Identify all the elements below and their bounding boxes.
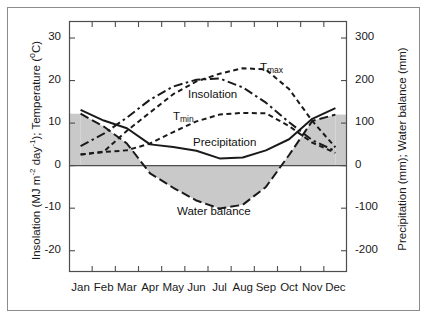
y-tick-label-left: -20 <box>31 243 61 255</box>
series-label-subscript: min <box>180 114 194 124</box>
y-tick-label-right: -200 <box>355 243 389 255</box>
series-label-precipitation: Precipitation <box>193 136 256 148</box>
series-label-main: T <box>260 61 267 73</box>
shade-cap-left <box>69 114 81 166</box>
y-tick-label-right: 0 <box>355 158 389 170</box>
y-tick-label-right: 200 <box>355 73 389 85</box>
water-balance-shaded-area <box>69 114 347 209</box>
y-tick-label-left: 30 <box>31 30 61 42</box>
right-axis-title: Precipitation (mm); Water balance (mm) <box>396 19 408 279</box>
y-tick-label-right: -100 <box>355 200 389 212</box>
series-label-subscript: max <box>267 65 283 75</box>
y-tick-label-right: 300 <box>355 30 389 42</box>
water-balance-fill <box>69 114 347 209</box>
left-axis-title: Insolation (MJ m-2 day-1); Temperature (… <box>27 20 42 280</box>
series-label-tmin: Tmin <box>173 110 194 122</box>
x-tick-label-dec: Dec <box>320 281 350 293</box>
series-label-tmax: Tmax <box>260 61 283 73</box>
y-tick-label-left: 0 <box>31 158 61 170</box>
y-tick-label-left: -10 <box>31 200 61 212</box>
figure-container: Insolation (MJ m-2 day-1); Temperature (… <box>0 0 428 319</box>
shade-cap-right <box>335 115 347 166</box>
series-label-water-balance: Water balance <box>177 205 251 217</box>
series-label-insolation: Insolation <box>188 88 237 100</box>
y-tick-label-left: 20 <box>31 73 61 85</box>
right-axis-title-text: Precipitation (mm); Water balance (mm) <box>396 47 408 250</box>
series-label-main: T <box>173 110 180 122</box>
y-tick-label-left: 10 <box>31 115 61 127</box>
y-tick-label-right: 100 <box>355 115 389 127</box>
